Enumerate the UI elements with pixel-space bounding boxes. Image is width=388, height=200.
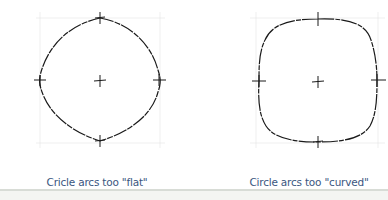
diagram-canvas [0, 0, 388, 200]
curved-circle-ticks [252, 12, 386, 148]
curved-circle-caption: Circle arcs too "curved" [230, 176, 388, 188]
bottom-strip [0, 191, 388, 200]
flat-circle-ticks [34, 12, 166, 147]
flat-circle-caption: Cricle arcs too "flat" [0, 176, 194, 188]
